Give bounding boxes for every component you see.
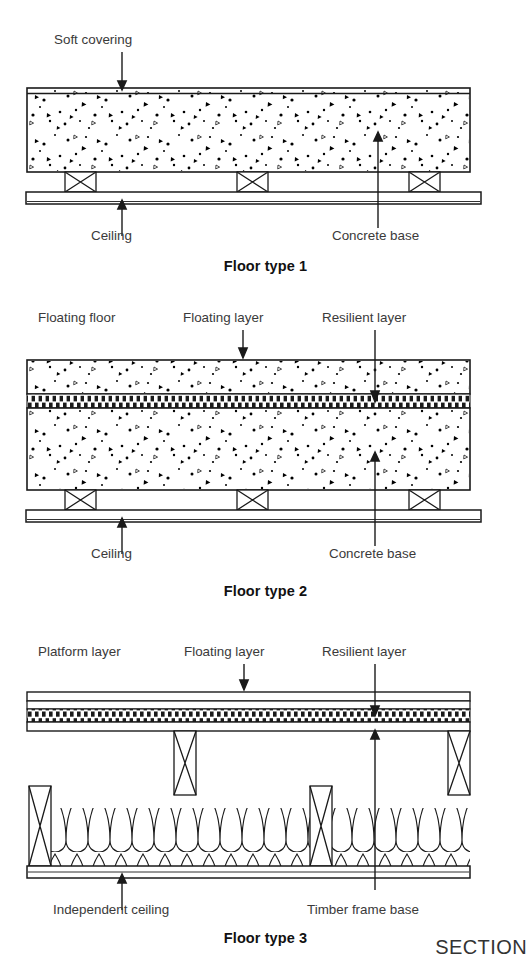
label-floating-layer-2: Floating layer bbox=[183, 310, 264, 325]
label-concrete-base: Concrete base bbox=[332, 228, 419, 243]
label-concrete-base-2: Concrete base bbox=[329, 546, 416, 561]
independent-ceiling-board-3 bbox=[27, 866, 470, 878]
label-timber-frame-base: Timber frame base bbox=[307, 902, 419, 917]
deck-board-3 bbox=[27, 722, 470, 731]
ceiling-board-2 bbox=[26, 510, 481, 522]
label-independent-ceiling: Independent ceiling bbox=[53, 902, 169, 917]
label-resilient-layer-3: Resilient layer bbox=[322, 644, 407, 659]
label-ceiling: Ceiling bbox=[91, 228, 132, 243]
insulation-quilt-3 bbox=[29, 808, 470, 866]
resilient-layer-2 bbox=[27, 394, 470, 408]
label-soft-covering: Soft covering bbox=[54, 32, 132, 47]
caption-floor-type-1: Floor type 1 bbox=[0, 258, 531, 274]
floor-type-3-diagram: Platform layer Floating layer Resilient … bbox=[0, 620, 531, 979]
label-floating-layer-3: Floating layer bbox=[184, 644, 265, 659]
resilient-layer-3 bbox=[27, 709, 470, 722]
label-floating-floor: Floating floor bbox=[38, 310, 116, 325]
joists-2 bbox=[65, 490, 440, 510]
floor-type-1-diagram: Soft covering Ceiling Concrete base bbox=[0, 0, 531, 290]
floor-type-2-diagram: Floating floor Floating layer Resilient … bbox=[0, 290, 531, 620]
floating-layer-3 bbox=[27, 701, 470, 709]
concrete-slab-1 bbox=[27, 88, 470, 172]
label-resilient-layer-2: Resilient layer bbox=[322, 310, 407, 325]
platform-layer-3 bbox=[27, 692, 470, 701]
joists-1 bbox=[65, 172, 440, 192]
floating-layer-2 bbox=[27, 360, 470, 394]
concrete-base-2 bbox=[27, 408, 470, 490]
caption-floor-type-2: Floor type 2 bbox=[0, 583, 531, 599]
label-ceiling-2: Ceiling bbox=[91, 546, 132, 561]
section-view-label: SECTION bbox=[435, 936, 527, 959]
label-platform-layer: Platform layer bbox=[38, 644, 121, 659]
ceiling-board-1 bbox=[26, 192, 481, 204]
